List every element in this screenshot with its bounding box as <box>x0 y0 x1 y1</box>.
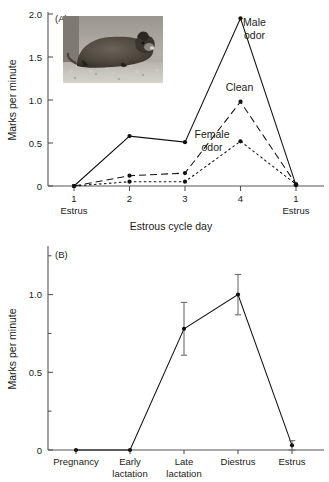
figure-container: 00.51.01.52.01Estrus2341EstrusEstrous cy… <box>0 0 329 482</box>
panel-a-x-axis-title: Estrous cycle day <box>130 220 213 232</box>
panel-a-data-point <box>183 171 187 175</box>
panel-a-x-tick-label: 1 <box>293 193 298 204</box>
panel-b-x-tick-label: Diestrus <box>221 456 256 467</box>
panel-b-chart: 00.51.0PregnancyEarlylactationLatelactat… <box>0 238 329 482</box>
panel-a-y-tick-label: 1.0 <box>29 95 42 106</box>
panel-a-data-point <box>127 134 131 138</box>
panel-a-chart: 00.51.01.52.01Estrus2341EstrusEstrous cy… <box>0 0 329 238</box>
panel-a-series-annotation: Femaleodor <box>194 128 229 153</box>
panel-a-data-point <box>238 139 242 143</box>
panel-b-y-axis-title: Marks per minute <box>6 308 18 389</box>
panel-b-x-tick-label: Estrus <box>279 456 306 467</box>
panel-a-series-label: odor <box>201 141 223 153</box>
panel-b-x-tick-sublabel: lactation <box>112 468 147 479</box>
panel-a-data-point <box>183 140 187 144</box>
panel-a-y-tick-label: 0 <box>37 181 42 192</box>
panel-b-x-tick-label: Late <box>175 456 194 467</box>
panel-a-x-tick-label: 3 <box>182 193 187 204</box>
panel-a-data-point <box>183 180 187 184</box>
panel-a-series-label: odor <box>244 29 266 41</box>
panel-a-data-point <box>238 16 242 20</box>
panel-a-series-annotation: Maleodor <box>243 16 266 41</box>
panel-a-data-point <box>127 180 131 184</box>
panel-b-x-tick-sublabel: lactation <box>166 468 201 479</box>
panel-a-y-axis-title: Marks per minute <box>6 59 18 140</box>
panel-b-data-point <box>128 448 132 452</box>
panel-a-series-label: Female <box>194 128 229 140</box>
panel-a-x-tick-label: 2 <box>127 193 132 204</box>
panel-a-data-point <box>294 182 298 186</box>
panel-b-data-point <box>236 293 240 297</box>
panel-b-y-tick-label: 1.0 <box>29 289 42 300</box>
panel-a-series-label: Clean <box>226 81 254 93</box>
panel-a-y-tick-label: 1.5 <box>29 52 42 63</box>
panel-a-x-tick-label: 1 <box>71 193 76 204</box>
rodent-photograph <box>63 16 163 83</box>
panel-b-label: (B) <box>55 249 68 260</box>
panel-a-data-point <box>72 184 76 188</box>
panel-a-x-sublabel: Estrus <box>283 205 310 216</box>
panel-a-data-point <box>238 100 242 104</box>
panel-b-data-point <box>290 443 294 447</box>
panel-b-y-tick-label: 0 <box>37 445 42 456</box>
panel-b-x-tick-label: Pregnancy <box>53 456 99 467</box>
panel-b-x-tick-label: Early <box>119 456 141 467</box>
panel-a-data-point <box>127 174 131 178</box>
panel-b-data-point <box>74 448 78 452</box>
panel-b-data-point <box>182 327 186 331</box>
panel-a-y-tick-label: 0.5 <box>29 138 42 149</box>
panel-a-series-label: Male <box>243 16 266 28</box>
panel-a-series-annotation: Clean <box>226 81 254 93</box>
panel-a-x-tick-label: 4 <box>238 193 243 204</box>
rodent-photo-svg <box>63 16 163 83</box>
panel-a-y-tick-label: 2.0 <box>29 9 42 20</box>
panel-b-y-tick-label: 0.5 <box>29 367 42 378</box>
panel-a-x-sublabel: Estrus <box>61 205 88 216</box>
